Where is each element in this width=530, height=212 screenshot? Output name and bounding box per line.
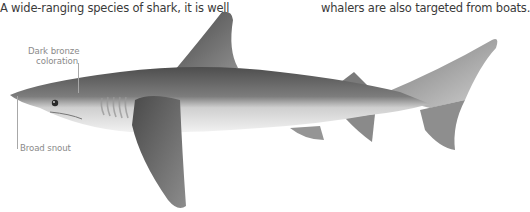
label-dark-bronze-coloration: Dark bronze coloration (28, 46, 78, 66)
label-broad-snout: Broad snout (20, 143, 71, 153)
pectoral-fin (132, 96, 186, 208)
caudal-fin-lower (420, 100, 465, 150)
eye (52, 100, 58, 106)
pelvic-fin (290, 126, 324, 140)
leader-line-broad-snout (17, 96, 18, 149)
label-line-2: coloration (28, 56, 78, 66)
dorsal-fin (175, 12, 238, 70)
leader-line-dark-bronze (78, 63, 79, 93)
label-line-1: Dark bronze (28, 46, 78, 56)
